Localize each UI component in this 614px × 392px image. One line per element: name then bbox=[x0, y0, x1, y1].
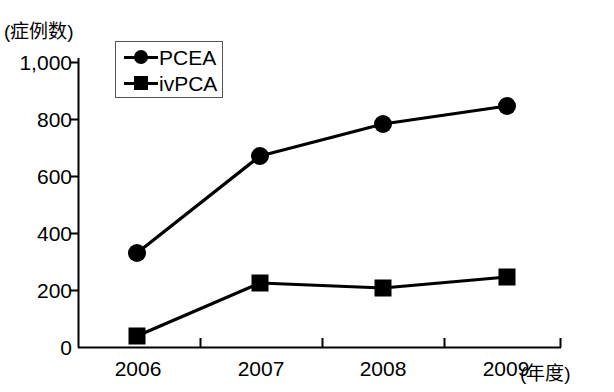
series-ivpca-line bbox=[137, 277, 507, 336]
data-point-ivpca-2006 bbox=[129, 328, 146, 345]
y-axis-ticks bbox=[70, 63, 79, 291]
series-pcea-line bbox=[137, 106, 507, 253]
legend-marker-square-icon bbox=[124, 72, 158, 94]
plot-area bbox=[0, 0, 614, 392]
data-point-pcea-2008 bbox=[374, 115, 392, 133]
data-point-pcea-2007 bbox=[251, 147, 269, 165]
data-point-ivpca-2009 bbox=[499, 269, 516, 286]
data-point-pcea-2009 bbox=[498, 97, 516, 115]
series-ivpca bbox=[129, 269, 516, 345]
legend-label-pcea: PCEA bbox=[159, 47, 216, 68]
data-point-ivpca-2007 bbox=[252, 275, 269, 292]
chart-figure: (症例数) 1,000 800 600 400 200 0 2006 2007 … bbox=[0, 0, 614, 392]
legend: PCEA ivPCA bbox=[115, 41, 223, 98]
legend-entry-ivpca: ivPCA bbox=[124, 70, 217, 96]
legend-marker-circle-icon bbox=[124, 46, 158, 68]
series-pcea bbox=[128, 97, 516, 262]
legend-label-ivpca: ivPCA bbox=[159, 73, 217, 94]
x-axis-ticks bbox=[201, 338, 561, 348]
data-point-pcea-2006 bbox=[128, 244, 146, 262]
axis-lines bbox=[78, 58, 561, 348]
legend-entry-pcea: PCEA bbox=[124, 44, 216, 70]
data-point-ivpca-2008 bbox=[375, 280, 392, 297]
